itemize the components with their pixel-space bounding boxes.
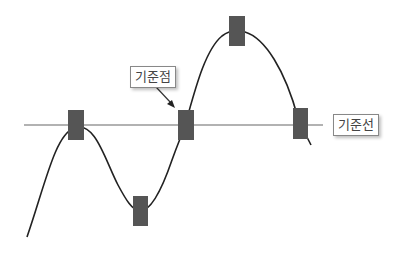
marker-3	[178, 110, 194, 140]
arrow-line	[156, 87, 172, 104]
reference-point-label: 기준점	[130, 66, 176, 88]
marker-1	[68, 110, 84, 140]
arrow-head-icon	[167, 100, 175, 108]
marker-4	[229, 16, 245, 46]
diagram-canvas: 기준점 기준선	[0, 0, 400, 254]
marker-2	[133, 196, 148, 226]
reference-line-label: 기준선	[333, 114, 379, 136]
marker-5	[293, 108, 308, 139]
